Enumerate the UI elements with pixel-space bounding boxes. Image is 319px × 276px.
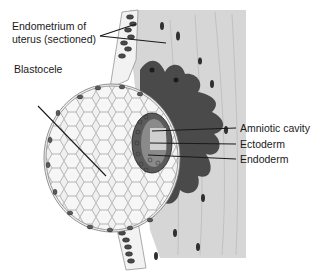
label-endometrium-line2: uterus (sectioned)	[12, 33, 96, 45]
label-endometrium-line1: Endometrium of	[12, 20, 86, 32]
label-amniotic-cavity: Amniotic cavity	[240, 122, 310, 134]
label-ectoderm: Ectoderm	[240, 138, 285, 150]
label-blastocele: Blastocele	[14, 63, 62, 75]
label-endoderm: Endoderm	[240, 153, 288, 165]
